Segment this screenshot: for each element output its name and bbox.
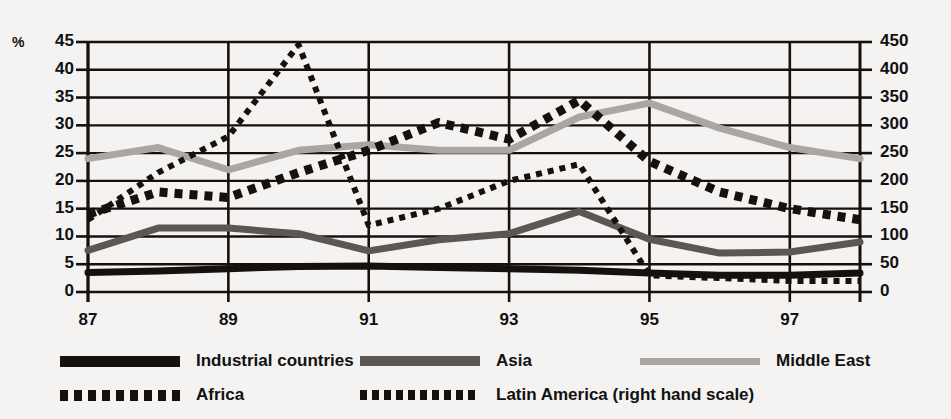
legend-label: Asia	[496, 351, 532, 371]
x-axis-tick-label: 87	[66, 310, 110, 330]
y-axis-right-tick-label: 150	[880, 198, 940, 218]
x-axis-tick-label: 89	[206, 310, 250, 330]
legend-swatch-asia	[360, 356, 480, 366]
y-axis-right-tick-label: 200	[880, 170, 940, 190]
legend-label-scale-note: (right hand scale)	[613, 385, 755, 404]
y-axis-left-tick-label: 25	[30, 142, 74, 162]
y-axis-right-tick-label: 250	[880, 142, 940, 162]
y-axis-left-tick-label: 20	[30, 170, 74, 190]
series-line-asia	[88, 211, 860, 253]
chart-figure: 0510152025303540450501001502002503003504…	[0, 0, 951, 419]
legend-label-text: Latin America	[496, 385, 613, 404]
legend-item[interactable]: Industrial countries	[60, 348, 354, 374]
x-axis-tick-label: 97	[768, 310, 812, 330]
y-axis-left-tick-label: 10	[30, 225, 74, 245]
x-axis-tick-label: 93	[487, 310, 531, 330]
legend-item[interactable]: Africa	[60, 382, 244, 408]
y-axis-left-tick-label: 5	[30, 253, 74, 273]
y-axis-left-tick-label: 30	[30, 114, 74, 134]
legend-row: Industrial countriesAsiaMiddle East	[60, 348, 940, 374]
legend-row: AfricaLatin America (right hand scale)	[60, 382, 940, 408]
legend-item[interactable]: Asia	[360, 348, 532, 374]
y-axis-right-tick-label: 0	[880, 281, 940, 301]
y-axis-left-tick-label: 0	[30, 281, 74, 301]
y-axis-right-tick-label: 100	[880, 225, 940, 245]
legend-swatch-africa	[60, 390, 180, 401]
legend-item[interactable]: Latin America (right hand scale)	[360, 382, 754, 408]
chart-legend: Industrial countriesAsiaMiddle East Afri…	[60, 348, 940, 412]
legend-label: Industrial countries	[196, 351, 354, 371]
legend-item[interactable]: Middle East	[640, 348, 870, 374]
y-axis-right-tick-label: 450	[880, 31, 940, 51]
legend-swatch-middle-east	[640, 358, 760, 365]
y-axis-left-tick-label: 15	[30, 198, 74, 218]
y-axis-right-tick-label: 300	[880, 114, 940, 134]
series-line-middle-east	[88, 103, 860, 170]
y-axis-left-tick-label: 35	[30, 87, 74, 107]
legend-swatch-industrial-countries	[60, 356, 180, 367]
legend-swatch-latin-america-right-hand-scale	[360, 390, 480, 400]
legend-label: Middle East	[776, 351, 870, 371]
y-axis-right-tick-label: 400	[880, 59, 940, 79]
x-axis-tick-label: 91	[347, 310, 391, 330]
legend-label: Latin America (right hand scale)	[496, 385, 754, 405]
x-axis-tick-label: 95	[627, 310, 671, 330]
series-line-industrial-countries	[88, 266, 860, 275]
legend-label: Africa	[196, 385, 244, 405]
y-axis-left-unit-label: %	[12, 34, 32, 50]
y-axis-left-tick-label: 40	[30, 59, 74, 79]
y-axis-left-tick-label: 45	[30, 31, 74, 51]
y-axis-right-tick-label: 50	[880, 253, 940, 273]
y-axis-right-tick-label: 350	[880, 87, 940, 107]
